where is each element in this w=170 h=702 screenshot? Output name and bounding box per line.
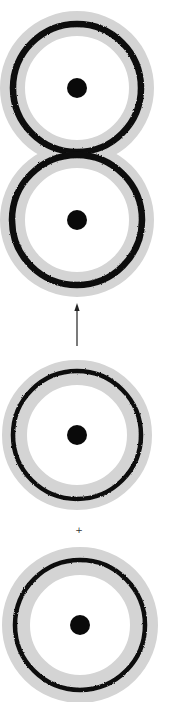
center-dot-4 [70,615,90,635]
center-dot-2 [67,210,87,230]
center-dot-1 [67,78,87,98]
plus-symbol: + [75,525,83,535]
figure-canvas: + [0,0,170,702]
halo-layer [13,24,145,690]
center-dot-3 [67,425,87,445]
arrow-up-icon [74,303,79,311]
ring-diagram: + [0,0,170,702]
